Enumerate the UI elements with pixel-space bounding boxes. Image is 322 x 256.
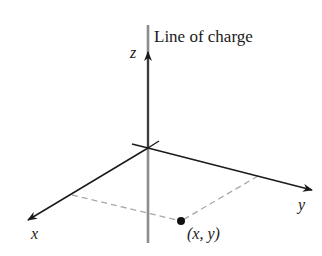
dashed-projection-x: [72, 195, 181, 221]
point-label: (x, y): [187, 226, 220, 242]
y-axis-label: y: [298, 197, 305, 213]
point-marker: [177, 217, 185, 225]
line-of-charge-label: Line of charge: [154, 28, 253, 45]
diagram-canvas: Line of charge z x y (x, y): [0, 0, 322, 256]
x-axis-label: x: [31, 226, 38, 242]
y-axis-stub: [132, 144, 148, 148]
z-axis-label: z: [130, 45, 136, 61]
dashed-projection-y: [181, 176, 258, 221]
y-axis: [148, 148, 312, 190]
x-axis-stub: [148, 141, 159, 148]
x-axis: [28, 148, 148, 220]
